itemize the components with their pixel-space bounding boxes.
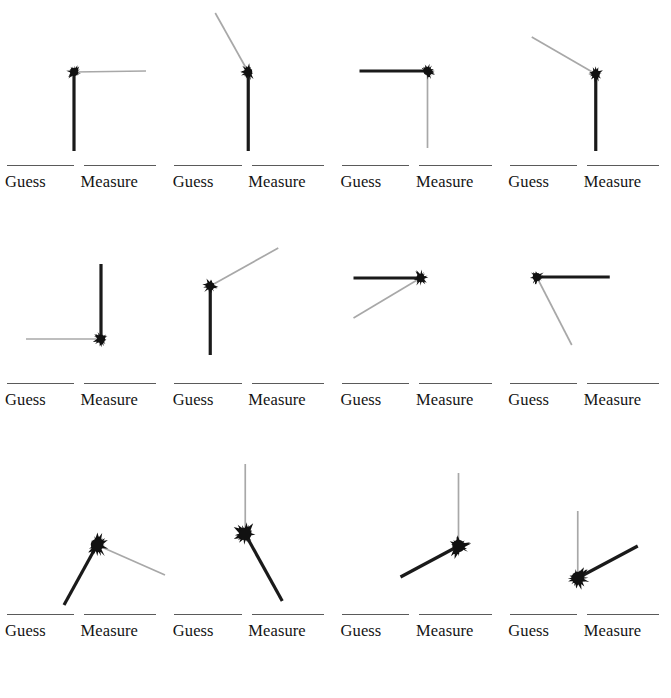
legend-rules: [336, 612, 504, 618]
guess-swatch-rule: [510, 383, 577, 384]
measure-swatch-rule: [587, 165, 659, 166]
vector-plot-1: [0, 0, 168, 230]
panel-legend: GuessMeasure: [168, 163, 336, 194]
legend-rules: [168, 381, 336, 387]
panel-legend: GuessMeasure: [503, 381, 671, 412]
vector-plot-10: [168, 460, 336, 698]
legend-labels: GuessMeasure: [503, 390, 671, 412]
legend-labels: GuessMeasure: [503, 172, 671, 194]
marker-core: [244, 68, 252, 76]
figure-canvas: GuessMeasureGuessMeasureGuessMeasureGues…: [0, 0, 671, 698]
legend-rules: [503, 381, 671, 387]
measure-legend-label: Measure: [248, 390, 306, 410]
legend-rules: [503, 163, 671, 169]
marker-core: [533, 273, 541, 281]
measure-legend-label: Measure: [584, 621, 642, 641]
panel-legend: GuessMeasure: [168, 381, 336, 412]
marker-core: [452, 540, 464, 552]
panel-legend: GuessMeasure: [503, 163, 671, 194]
marker-core: [416, 274, 424, 282]
legend-rules: [168, 612, 336, 618]
vector-plot-8: [503, 230, 671, 460]
measure-swatch-rule: [419, 165, 491, 166]
guess-legend-label: Guess: [173, 390, 214, 410]
guess-legend-label: Guess: [5, 390, 46, 410]
guess-legend-label: Guess: [341, 621, 382, 641]
panel-11: GuessMeasure: [336, 460, 504, 698]
panel-1: GuessMeasure: [0, 0, 168, 230]
marker-core: [97, 335, 105, 343]
measure-vector: [97, 545, 165, 575]
guess-swatch-rule: [7, 165, 74, 166]
panel-5: GuessMeasure: [0, 230, 168, 460]
marker-core: [239, 528, 251, 540]
panel-legend: GuessMeasure: [336, 381, 504, 412]
panel-9: GuessMeasure: [0, 460, 168, 698]
measure-swatch-rule: [252, 614, 324, 615]
panel-2: GuessMeasure: [168, 0, 336, 230]
guess-legend-label: Guess: [173, 172, 214, 192]
guess-vector: [64, 545, 97, 605]
guess-legend-label: Guess: [508, 621, 549, 641]
measure-legend-label: Measure: [584, 390, 642, 410]
legend-labels: GuessMeasure: [0, 390, 168, 412]
guess-legend-label: Guess: [5, 621, 46, 641]
panel-legend: GuessMeasure: [336, 612, 504, 643]
panel-legend: GuessMeasure: [336, 163, 504, 194]
measure-legend-label: Measure: [81, 621, 139, 641]
legend-rules: [336, 163, 504, 169]
panel-legend: GuessMeasure: [503, 612, 671, 643]
guess-legend-label: Guess: [341, 390, 382, 410]
guess-vector: [400, 546, 458, 577]
guess-swatch-rule: [510, 614, 577, 615]
legend-rules: [503, 612, 671, 618]
vector-plot-5: [0, 230, 168, 460]
measure-swatch-rule: [587, 383, 659, 384]
measure-vector: [74, 71, 146, 72]
legend-rules: [0, 612, 168, 618]
measure-swatch-rule: [252, 383, 324, 384]
legend-labels: GuessMeasure: [336, 390, 504, 412]
guess-legend-label: Guess: [5, 172, 46, 192]
panel-7: GuessMeasure: [336, 230, 504, 460]
guess-swatch-rule: [342, 383, 409, 384]
legend-labels: GuessMeasure: [0, 172, 168, 194]
guess-legend-label: Guess: [508, 390, 549, 410]
measure-swatch-rule: [419, 383, 491, 384]
legend-labels: GuessMeasure: [168, 390, 336, 412]
legend-rules: [0, 381, 168, 387]
marker-core: [70, 68, 78, 76]
legend-labels: GuessMeasure: [0, 621, 168, 643]
guess-swatch-rule: [510, 165, 577, 166]
measure-swatch-rule: [587, 614, 659, 615]
measure-legend-label: Measure: [416, 621, 474, 641]
marker-core: [206, 282, 214, 290]
legend-rules: [168, 163, 336, 169]
panel-8: GuessMeasure: [503, 230, 671, 460]
guess-legend-label: Guess: [508, 172, 549, 192]
panel-4: GuessMeasure: [503, 0, 671, 230]
vector-plot-3: [336, 0, 504, 230]
guess-swatch-rule: [174, 383, 241, 384]
measure-vector: [215, 13, 248, 72]
legend-labels: GuessMeasure: [503, 621, 671, 643]
marker-core: [572, 572, 584, 584]
measure-legend-label: Measure: [81, 390, 139, 410]
legend-rules: [336, 381, 504, 387]
legend-rules: [0, 163, 168, 169]
panel-legend: GuessMeasure: [168, 612, 336, 643]
vector-plot-12: [503, 460, 671, 698]
measure-vector: [210, 248, 278, 286]
marker-core: [423, 67, 431, 75]
measure-swatch-rule: [84, 165, 156, 166]
vector-plot-9: [0, 460, 168, 698]
legend-labels: GuessMeasure: [336, 621, 504, 643]
legend-labels: GuessMeasure: [168, 172, 336, 194]
vector-plot-11: [336, 460, 504, 698]
measure-swatch-rule: [84, 614, 156, 615]
panel-6: GuessMeasure: [168, 230, 336, 460]
measure-legend-label: Measure: [248, 621, 306, 641]
legend-labels: GuessMeasure: [168, 621, 336, 643]
measure-legend-label: Measure: [416, 172, 474, 192]
vector-plot-6: [168, 230, 336, 460]
